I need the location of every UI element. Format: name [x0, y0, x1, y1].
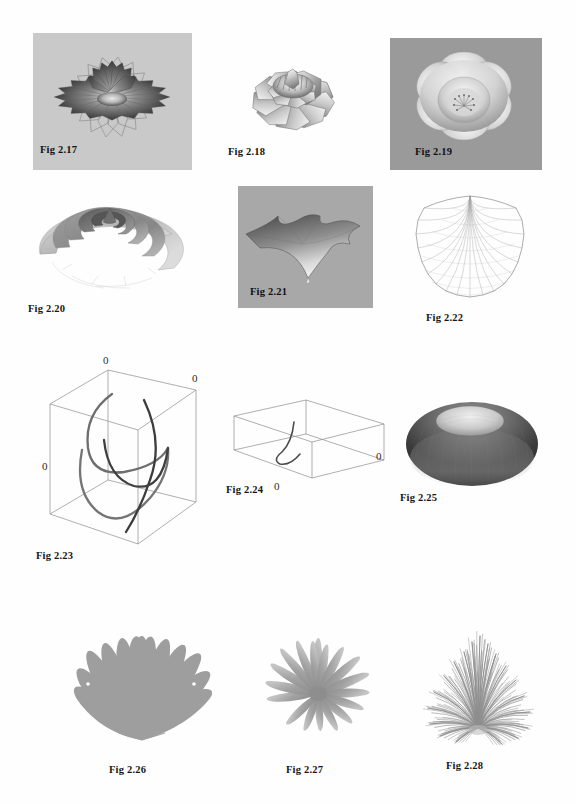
figure-caption-fig-2-28: Fig 2.28 [446, 760, 483, 771]
axis-label-x: 0 [42, 460, 48, 472]
figure-caption-fig-2-23: Fig 2.23 [36, 550, 73, 561]
figure-art-agave-rosette [252, 628, 388, 744]
figure-caption-fig-2-24: Fig 2.24 [226, 484, 263, 495]
figure-cell-fig-2-23: 0 0 0 Fig 2.23 [38, 352, 210, 564]
figure-cell-fig-2-20: Fig 2.20 [28, 190, 196, 303]
figure-cell-fig-2-25: Fig 2.25 [404, 396, 544, 502]
axis-label-front: 0 [274, 480, 280, 492]
figure-caption-fig-2-21: Fig 2.21 [250, 286, 287, 297]
figure-cell-fig-2-19: Fig 2.19 [390, 38, 542, 170]
figure-caption-fig-2-17: Fig 2.17 [40, 144, 77, 155]
figure-caption-fig-2-22: Fig 2.22 [426, 312, 463, 323]
figure-cell-fig-2-21: Fig 2.21 [238, 186, 373, 308]
figure-cell-fig-2-17: Fig 2.17 [33, 33, 192, 170]
figure-art-space-curve-box-tall: 0 0 0 [38, 352, 210, 564]
figure-caption-fig-2-25: Fig 2.25 [400, 492, 437, 503]
figure-cell-fig-2-27: Fig 2.27 [252, 628, 388, 744]
figure-art-leaf-cluster [68, 612, 216, 764]
figure-art-helicoid-spiral [28, 190, 196, 303]
figure-art-grass-tuft [408, 610, 548, 760]
figure-plate-page: Fig 2.17 [0, 0, 576, 804]
figure-cell-fig-2-26: Fig 2.26 [68, 612, 216, 764]
figure-caption-fig-2-27: Fig 2.27 [286, 764, 323, 775]
figure-art-cup-blossom [390, 38, 542, 170]
figure-cell-fig-2-28: Fig 2.28 [408, 610, 548, 760]
figure-cell-fig-2-22: Fig 2.22 [404, 186, 536, 312]
figure-caption-fig-2-20: Fig 2.20 [28, 303, 65, 314]
figure-caption-fig-2-26: Fig 2.26 [109, 764, 146, 775]
figure-cell-fig-2-24: 0 0 Fig 2.24 [232, 398, 392, 502]
axis-label-y: 0 [192, 372, 198, 384]
figure-caption-fig-2-19: Fig 2.19 [415, 146, 452, 157]
figure-art-dark-dome [404, 396, 544, 502]
axis-label-z: 0 [103, 354, 109, 366]
axis-label-right: 0 [376, 450, 382, 462]
figure-caption-fig-2-18: Fig 2.18 [228, 146, 265, 157]
figure-cell-fig-2-18: Fig 2.18 [223, 38, 367, 170]
figure-art-scallop-shell [404, 186, 536, 312]
